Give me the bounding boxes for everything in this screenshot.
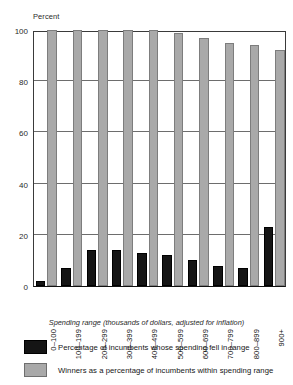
chart-legend: Percentage of incumbents whose spending … [24,340,286,385]
bar-chart: Percent 020406080100 0–100100–199200–299… [0,0,293,385]
legend-label: Winners as a percentage of incumbents wi… [58,366,273,375]
bar-group [110,32,135,286]
legend-swatch-light [24,363,47,377]
bar-dark [188,260,198,286]
bar-dark [112,250,122,286]
bar-light [149,30,159,286]
y-axis-tick-labels: 020406080100 [0,31,31,287]
y-tick-80: 80 [0,78,28,87]
y-tick-40: 40 [0,180,28,189]
bar-group [262,32,287,286]
bar-light [275,50,285,286]
bar-group [161,32,186,286]
bar-light [225,43,235,286]
bar-dark [162,255,172,286]
y-axis-title: Percent [33,12,60,21]
bar-dark [213,266,223,286]
y-tick-100: 100 [0,27,28,36]
bar-group [34,32,59,286]
bar-group [59,32,84,286]
bar-group [85,32,110,286]
bar-group [236,32,261,286]
legend-label: Percentage of incumbents whose spending … [58,343,250,352]
y-tick-0: 0 [0,283,28,292]
legend-swatch-dark [24,340,47,354]
bar-light [199,38,209,286]
bar-light [123,30,133,286]
bar-group [211,32,236,286]
bar-light [174,33,184,286]
y-tick-20: 20 [0,231,28,240]
bar-dark [87,250,97,286]
legend-item: Percentage of incumbents whose spending … [24,340,286,354]
bar-dark [137,253,147,286]
plot-area [33,31,286,287]
bar-dark [238,268,248,286]
bar-light [250,45,260,286]
bar-light [47,30,57,286]
bar-dark [264,227,274,286]
legend-item: Winners as a percentage of incumbents wi… [24,363,286,377]
x-axis-title: Spending range (thousands of dollars, ad… [0,318,293,327]
bar-dark [61,268,71,286]
bar-group [135,32,160,286]
bar-light [73,30,83,286]
bar-light [98,30,108,286]
bar-group [186,32,211,286]
bar-dark [36,281,46,286]
y-tick-60: 60 [0,129,28,138]
bar-groups [34,32,285,286]
